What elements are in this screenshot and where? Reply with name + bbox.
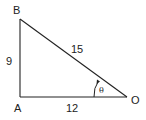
vertex-label-o: O [131,94,140,106]
side-label-bo: 15 [71,43,83,55]
angle-label-theta: θ [99,86,104,95]
side-label-ao: 12 [66,102,78,114]
angle-arrow-icon [97,80,101,85]
side-bo [20,19,127,97]
vertex-label-a: A [14,102,22,114]
angle-arc [94,81,99,97]
vertex-label-b: B [13,4,20,16]
side-label-ab: 9 [6,55,12,67]
triangle-diagram: B A O 9 12 15 θ [0,0,146,120]
triangle-sides [20,19,127,97]
